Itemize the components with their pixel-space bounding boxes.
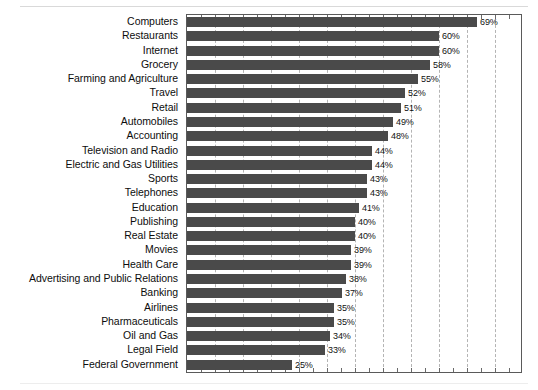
bar-value-label: 44% bbox=[375, 144, 393, 158]
category-label: Travel bbox=[0, 85, 182, 100]
bar-row: 40% bbox=[187, 229, 521, 244]
category-label: Telephones bbox=[0, 185, 182, 200]
bar-value-label: 39% bbox=[354, 243, 372, 257]
bar-row: 40% bbox=[187, 215, 521, 230]
bar-row: 44% bbox=[187, 158, 521, 173]
bar bbox=[187, 160, 372, 170]
category-label: Movies bbox=[0, 242, 182, 257]
bars-container: 69%60%60%58%55%52%51%49%48%44%44%43%43%4… bbox=[187, 15, 521, 372]
bar-value-label: 60% bbox=[442, 29, 460, 43]
category-label: Restaurants bbox=[0, 28, 182, 43]
bar-value-label: 39% bbox=[354, 258, 372, 272]
bar-row: 41% bbox=[187, 201, 521, 216]
category-label: Sports bbox=[0, 171, 182, 186]
category-label: Automobiles bbox=[0, 114, 182, 129]
category-label: Retail bbox=[0, 100, 182, 115]
category-label: Grocery bbox=[0, 57, 182, 72]
bar-row: 44% bbox=[187, 144, 521, 159]
bar bbox=[187, 245, 351, 255]
category-label: Electric and Gas Utilities bbox=[0, 157, 182, 172]
top-divider bbox=[20, 6, 528, 7]
category-label: Pharmaceuticals bbox=[0, 314, 182, 329]
category-label: Internet bbox=[0, 43, 182, 58]
category-label: Computers bbox=[0, 14, 182, 29]
bar-value-label: 51% bbox=[404, 101, 422, 115]
bar bbox=[187, 117, 393, 127]
bar-row: 69% bbox=[187, 15, 521, 30]
bar-value-label: 58% bbox=[433, 58, 451, 72]
bar bbox=[187, 174, 367, 184]
bar-row: 25% bbox=[187, 358, 521, 373]
category-axis-labels: ComputersRestaurantsInternetGroceryFarmi… bbox=[0, 14, 182, 373]
bar-row: 52% bbox=[187, 86, 521, 101]
bar bbox=[187, 217, 355, 227]
bar-row: 58% bbox=[187, 58, 521, 73]
bar bbox=[187, 260, 351, 270]
bar-value-label: 37% bbox=[345, 286, 363, 300]
bar-value-label: 52% bbox=[408, 86, 426, 100]
bar bbox=[187, 231, 355, 241]
bar bbox=[187, 331, 330, 341]
bar-value-label: 34% bbox=[333, 329, 351, 343]
bar-value-label: 48% bbox=[391, 129, 409, 143]
bar bbox=[187, 31, 439, 41]
bar-row: 35% bbox=[187, 315, 521, 330]
bar bbox=[187, 131, 388, 141]
category-label: Advertising and Public Relations bbox=[0, 271, 182, 286]
category-label: Health Care bbox=[0, 257, 182, 272]
bar bbox=[187, 103, 401, 113]
bar-row: 51% bbox=[187, 101, 521, 116]
bar-row: 43% bbox=[187, 186, 521, 201]
category-label: Banking bbox=[0, 285, 182, 300]
bar-value-label: 40% bbox=[358, 229, 376, 243]
bar-value-label: 44% bbox=[375, 158, 393, 172]
category-label: Farming and Agriculture bbox=[0, 71, 182, 86]
bar bbox=[187, 274, 346, 284]
bar-row: 38% bbox=[187, 272, 521, 287]
bar-value-label: 69% bbox=[480, 15, 498, 29]
bar-chart: ComputersRestaurantsInternetGroceryFarmi… bbox=[0, 0, 538, 390]
bar-value-label: 38% bbox=[349, 272, 367, 286]
bar-value-label: 43% bbox=[370, 172, 388, 186]
bar-value-label: 35% bbox=[337, 301, 355, 315]
bar-value-label: 33% bbox=[328, 343, 346, 357]
bar-row: 33% bbox=[187, 343, 521, 358]
category-label: Federal Government bbox=[0, 357, 182, 372]
bar-value-label: 41% bbox=[362, 201, 380, 215]
bar bbox=[187, 46, 439, 56]
bottom-divider bbox=[20, 383, 528, 384]
bar bbox=[187, 74, 418, 84]
bar bbox=[187, 17, 477, 27]
bar bbox=[187, 60, 430, 70]
bar-row: 43% bbox=[187, 172, 521, 187]
category-label: Oil and Gas bbox=[0, 328, 182, 343]
bar bbox=[187, 203, 359, 213]
bar bbox=[187, 146, 372, 156]
bar bbox=[187, 303, 334, 313]
bar bbox=[187, 188, 367, 198]
bar-row: 37% bbox=[187, 286, 521, 301]
category-label: Airlines bbox=[0, 300, 182, 315]
bar-value-label: 60% bbox=[442, 44, 460, 58]
bar-row: 55% bbox=[187, 72, 521, 87]
category-label: Television and Radio bbox=[0, 143, 182, 158]
bar-value-label: 35% bbox=[337, 315, 355, 329]
bar-row: 39% bbox=[187, 258, 521, 273]
bar-row: 49% bbox=[187, 115, 521, 130]
category-label: Accounting bbox=[0, 128, 182, 143]
category-label: Legal Field bbox=[0, 342, 182, 357]
bar-value-label: 25% bbox=[295, 358, 313, 372]
bar bbox=[187, 360, 292, 370]
bar-value-label: 40% bbox=[358, 215, 376, 229]
bar-row: 48% bbox=[187, 129, 521, 144]
bar-row: 60% bbox=[187, 29, 521, 44]
bar bbox=[187, 288, 342, 298]
bar-row: 34% bbox=[187, 329, 521, 344]
plot-area: 69%60%60%58%55%52%51%49%48%44%44%43%43%4… bbox=[186, 14, 522, 373]
category-label: Publishing bbox=[0, 214, 182, 229]
category-label: Education bbox=[0, 200, 182, 215]
bar-row: 39% bbox=[187, 243, 521, 258]
bar bbox=[187, 317, 334, 327]
bar-value-label: 43% bbox=[370, 186, 388, 200]
category-label: Real Estate bbox=[0, 228, 182, 243]
